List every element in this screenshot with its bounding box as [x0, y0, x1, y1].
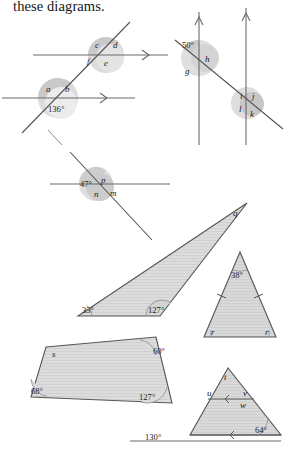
angle-label-s: s — [52, 349, 56, 359]
angle-label-136: 136° — [48, 104, 65, 114]
angle-label-q: q — [233, 208, 238, 218]
angle-label-r-right: r — [265, 327, 269, 337]
angle-label-h: h — [205, 54, 210, 64]
diagram-single-intersection-mnp: 47° p n m — [50, 152, 170, 240]
angle-label-m: m — [110, 188, 117, 198]
angle-label-w: w — [240, 400, 246, 410]
angle-label-p: p — [100, 175, 106, 185]
transversal-line — [22, 22, 130, 133]
angle-label-47: 47° — [80, 179, 93, 189]
angle-label-v: v — [243, 388, 247, 398]
angle-label-127: 127° — [139, 392, 156, 402]
diagram-parallelogram-s: s 60° 68° 127° — [31, 337, 172, 403]
angle-label-e: e — [104, 58, 108, 68]
diagram-parallel-lines-ghijkl: 50° h g i j l k — [175, 8, 283, 145]
angle-label-n: n — [94, 189, 99, 199]
angle-label-130: 130° — [145, 432, 162, 442]
angle-label-g: g — [185, 66, 190, 76]
angle-label-33: 33° — [82, 305, 95, 315]
stray-segment — [48, 130, 62, 145]
isosceles-triangle-shape — [204, 252, 276, 337]
angle-label-127: 127° — [148, 305, 165, 315]
angle-label-j: j — [251, 91, 255, 101]
worksheet-page: these diagrams. — [0, 0, 290, 450]
angle-label-r-left: r — [211, 327, 215, 337]
angle-label-d: d — [113, 40, 118, 50]
angle-label-68: 68° — [31, 386, 44, 396]
geometry-figures: c d f e a b 136° 50° h g i — [0, 0, 290, 450]
angle-label-u: u — [207, 388, 212, 398]
angle-label-a: a — [46, 84, 51, 94]
angle-label-c: c — [95, 40, 99, 50]
transversal-line-2 — [175, 40, 283, 129]
angle-arc-upper-inner — [96, 44, 124, 72]
triangle-tuvw-shape — [190, 368, 281, 435]
diagram-parallel-lines-abcdef: c d f e a b 136° — [2, 22, 168, 145]
angle-label-38: 38° — [231, 270, 244, 280]
angle-label-b: b — [65, 84, 70, 94]
diagram-isosceles-triangle-r: 38° r r — [204, 252, 276, 337]
angle-label-50: 50° — [182, 40, 195, 50]
angle-label-64: 64° — [255, 425, 268, 435]
angle-label-60: 60° — [153, 346, 166, 356]
